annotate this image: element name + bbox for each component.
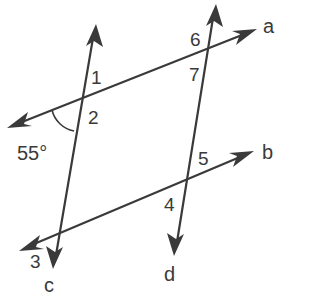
given-angle-value: 55° (17, 142, 47, 164)
geometry-diagram: a b c d 1 2 3 4 5 6 7 55° (0, 0, 311, 298)
angle-label-7: 7 (189, 64, 200, 85)
arrowhead-up-icon (206, 4, 223, 27)
line-label-b: b (262, 141, 273, 163)
line-b (19, 151, 254, 251)
angle-label-2: 2 (88, 107, 99, 128)
arrowhead-down-icon (46, 246, 63, 269)
angle-label-1: 1 (91, 67, 102, 88)
angle-label-6: 6 (190, 29, 201, 50)
line-label-c: c (44, 274, 54, 296)
angle-label-5: 5 (198, 148, 209, 169)
arrowhead-up-icon (86, 24, 103, 47)
arrowhead-down-icon (167, 233, 184, 256)
line-label-a: a (263, 15, 275, 37)
angle-label-4: 4 (164, 194, 175, 215)
line-label-d: d (164, 263, 175, 285)
line-a (7, 29, 257, 128)
angle-arc (52, 110, 74, 131)
line-c (46, 24, 103, 269)
arrowhead-left-icon (19, 235, 44, 251)
angle-label-3: 3 (30, 251, 41, 272)
